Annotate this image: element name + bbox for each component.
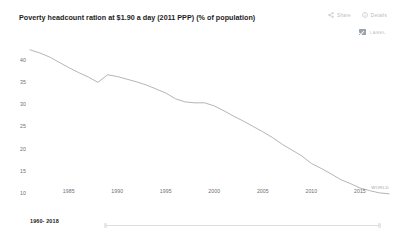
details-button[interactable]: Details — [362, 12, 387, 18]
y-axis-tick: 15 — [0, 168, 26, 174]
x-axis-tick: 1990 — [111, 188, 123, 194]
y-axis-tick: 35 — [0, 79, 26, 85]
page-title: Poverty headcount ration at $1.90 a day … — [19, 13, 255, 22]
y-axis: 40353025201510 — [0, 44, 26, 200]
share-button[interactable]: Share — [328, 12, 351, 18]
details-label: Details — [371, 13, 387, 18]
x-axis-tick: 1995 — [160, 188, 172, 194]
checkbox-checked-icon[interactable] — [359, 29, 366, 35]
share-label: Share — [337, 13, 351, 18]
date-range-label: 1960- 2018 — [30, 218, 59, 224]
chart-page: Poverty headcount ration at $1.90 a day … — [0, 0, 393, 240]
chart-header: Poverty headcount ration at $1.90 a day … — [0, 0, 393, 44]
x-axis-tick: 2015 — [354, 188, 366, 194]
y-axis-tick: 40 — [0, 57, 26, 63]
x-axis-tick: 2000 — [208, 188, 220, 194]
chart-plot: 40353025201510 WORLD — [0, 44, 393, 200]
plot-area: WORLD — [30, 44, 389, 200]
y-axis-tick: 20 — [0, 146, 26, 152]
slider-handle-end[interactable] — [378, 223, 381, 228]
info-icon — [362, 12, 368, 18]
chart-footer: 1960- 2018 — [0, 206, 393, 240]
x-axis: 1985199019952000200520102015 — [30, 188, 389, 200]
y-axis-tick: 30 — [0, 101, 26, 107]
y-axis-tick: 10 — [0, 190, 26, 196]
slider-track[interactable] — [105, 225, 380, 226]
year-range-slider[interactable] — [105, 222, 380, 229]
share-icon — [328, 12, 334, 18]
x-axis-tick: 2005 — [257, 188, 269, 194]
series-line-world — [30, 44, 389, 200]
x-axis-tick: 2010 — [305, 188, 317, 194]
label-toggle-text: LABEL — [370, 30, 386, 35]
header-actions: Share Details — [328, 12, 387, 18]
y-axis-tick: 25 — [0, 123, 26, 129]
x-axis-tick: 1985 — [63, 188, 75, 194]
label-toggle[interactable]: LABEL — [359, 29, 386, 35]
slider-handle-start[interactable] — [104, 223, 107, 228]
